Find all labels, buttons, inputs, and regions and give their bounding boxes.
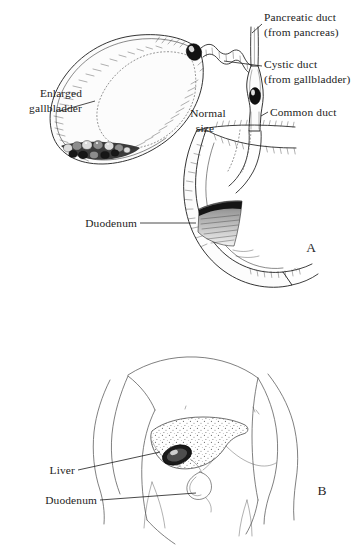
label-normal-size-line1: Normal bbox=[190, 107, 226, 119]
label-pancreatic-duct-line2: (from pancreas) bbox=[264, 26, 339, 39]
cystic-duct bbox=[201, 44, 255, 75]
pancreatic-duct bbox=[251, 27, 259, 66]
panel-b-group bbox=[78, 357, 298, 544]
impacted-gallstone bbox=[249, 88, 260, 105]
leader-common-duct bbox=[261, 112, 268, 116]
figure-root: Enlarged gallbladder Normal size Pancrea… bbox=[0, 0, 361, 553]
panel-letter-a: A bbox=[306, 240, 316, 255]
label-liver-b: Liver bbox=[50, 464, 75, 476]
label-cystic-duct-line2: (from gallbladder) bbox=[264, 73, 351, 86]
panel-letter-b: B bbox=[317, 483, 326, 498]
panel-b-labels: Liver Duodenum B bbox=[45, 464, 326, 506]
label-common-duct: Common duct bbox=[270, 106, 337, 118]
leader-pancreatic-duct bbox=[252, 24, 262, 33]
label-duodenum-a: Duodenum bbox=[85, 217, 137, 229]
label-cystic-duct-line1: Cystic duct bbox=[264, 58, 318, 70]
label-enlarged-gallbladder-line2: gallbladder bbox=[29, 102, 82, 114]
label-pancreatic-duct-line1: Pancreatic duct bbox=[264, 11, 337, 23]
duodenum-organ bbox=[184, 120, 318, 287]
duodenum-fringe-band bbox=[214, 134, 295, 154]
anatomy-illustration: Enlarged gallbladder Normal size Pancrea… bbox=[0, 0, 361, 553]
label-normal-size-line2: size bbox=[196, 122, 214, 134]
common-duct-path-guide-left bbox=[228, 130, 240, 171]
common-duct bbox=[247, 66, 264, 131]
label-enlarged-gallbladder-line1: Enlarged bbox=[40, 87, 82, 99]
label-duodenum-b: Duodenum bbox=[45, 494, 97, 506]
